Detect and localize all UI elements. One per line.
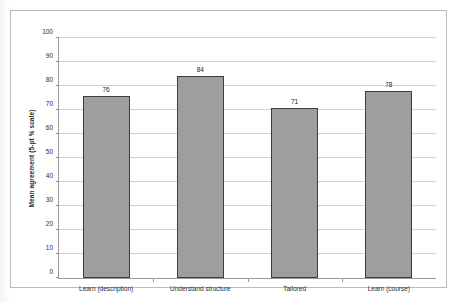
x-axis-category-label: Learn (description) — [59, 285, 153, 292]
bar-slot: 71Tailored — [248, 38, 342, 278]
bar[interactable] — [177, 76, 224, 278]
bar[interactable] — [83, 96, 130, 278]
y-axis-tick-label: 40 — [46, 172, 53, 179]
x-axis-category-label: Learn (course) — [342, 285, 436, 292]
category-separator — [342, 278, 343, 282]
y-axis-tick-label: 60 — [46, 124, 53, 131]
y-axis-title-text: Mean agreement (5-pt % scale) — [29, 110, 36, 208]
bar-slot: 78Learn (course) — [342, 38, 436, 278]
y-axis-tick-label: 70 — [46, 100, 53, 107]
plot-area: 1009080706050403020100 76Learn (descript… — [58, 38, 436, 279]
y-axis-tick-label: 90 — [46, 52, 53, 59]
chart-frame: Mean agreement (5-pt % scale) 1009080706… — [10, 10, 447, 288]
bar-value-label: 71 — [248, 98, 342, 106]
bar[interactable] — [365, 91, 412, 278]
y-axis-tick-label: 0 — [49, 268, 53, 275]
y-axis-tick-label: 20 — [46, 220, 53, 227]
bar-slot: 84Understand structure — [153, 38, 247, 278]
x-axis-category-label: Tailored — [248, 285, 342, 292]
y-axis-title: Mean agreement (5-pt % scale) — [25, 38, 39, 279]
bar[interactable] — [271, 108, 318, 278]
category-separator — [153, 278, 154, 282]
y-axis-tick-label: 100 — [42, 28, 53, 35]
bar-value-label: 76 — [59, 86, 153, 94]
y-axis-tick-label: 10 — [46, 244, 53, 251]
bar-slot: 76Learn (description) — [59, 38, 153, 278]
bar-value-label: 78 — [342, 81, 436, 89]
category-separator — [248, 278, 249, 282]
bar-value-label: 84 — [153, 66, 247, 74]
y-axis-tick-label: 30 — [46, 196, 53, 203]
x-axis-category-label: Understand structure — [153, 285, 247, 292]
y-axis-tick-label: 80 — [46, 76, 53, 83]
y-axis-tick-label: 50 — [46, 148, 53, 155]
